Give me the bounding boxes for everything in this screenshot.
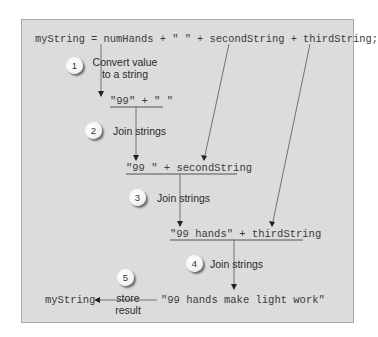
step-4-badge: 4 <box>186 255 203 272</box>
step-1-badge: 1 <box>66 57 83 74</box>
step-2-expression: "99 " + secondString <box>126 162 252 174</box>
step-2-badge: 2 <box>85 122 102 139</box>
step-4-result-string: "99 hands make light work" <box>161 294 325 306</box>
step-2-label: Join strings <box>113 125 166 137</box>
step-1-label: Convert value to a string <box>90 56 160 80</box>
step-5-target-variable: myString <box>45 294 95 306</box>
step-4-label: Join strings <box>210 258 263 270</box>
step-3-expression: "99 hands" + thirdString <box>170 228 321 240</box>
step-3-label: Join strings <box>157 192 210 204</box>
step-5-label: store result <box>108 292 148 316</box>
step-1-expression: "99" + " " <box>110 95 173 107</box>
step-3-badge: 3 <box>129 189 146 206</box>
statement-code: myString = numHands + " " + secondString… <box>35 33 378 45</box>
step-5-badge: 5 <box>117 269 134 286</box>
